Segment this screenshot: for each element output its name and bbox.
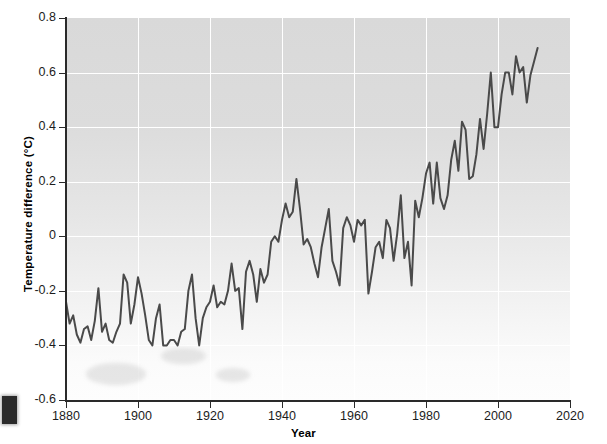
y-axis-tick xyxy=(59,400,65,401)
x-axis-tick-label: 1900 xyxy=(108,409,168,423)
y-axis-tick xyxy=(59,73,65,74)
y-axis-tick xyxy=(59,127,65,128)
x-axis-tick-label: 1940 xyxy=(252,409,312,423)
data-series-line xyxy=(66,18,570,400)
y-axis-tick-label: -0.4 xyxy=(6,337,56,351)
y-axis-tick xyxy=(59,291,65,292)
x-axis-tick-label: 2000 xyxy=(468,409,528,423)
x-axis-tick-label: 1880 xyxy=(36,409,96,423)
y-axis-tick-label: 0.6 xyxy=(6,65,56,79)
x-axis-title: Year xyxy=(0,427,607,439)
x-axis-tick xyxy=(210,402,211,408)
x-axis-tick xyxy=(66,402,67,408)
y-axis-tick xyxy=(59,236,65,237)
x-axis-line xyxy=(65,400,571,402)
y-axis-title: Temperature difference (°C) xyxy=(22,104,34,324)
x-axis-tick xyxy=(570,402,571,408)
plot-area xyxy=(66,18,570,400)
y-axis-tick xyxy=(59,345,65,346)
y-axis-tick xyxy=(59,182,65,183)
y-axis-line xyxy=(65,17,67,401)
x-axis-tick xyxy=(426,402,427,408)
x-axis-tick xyxy=(282,402,283,408)
y-axis-tick xyxy=(59,18,65,19)
x-axis-tick xyxy=(354,402,355,408)
x-axis-tick-label: 1960 xyxy=(324,409,384,423)
x-axis-tick-label: 1980 xyxy=(396,409,456,423)
x-axis-tick xyxy=(498,402,499,408)
x-axis-tick-label: 2020 xyxy=(540,409,600,423)
chart-page: 1880 1900 1920 1940 1960 1980 2000 2020 … xyxy=(0,0,607,444)
scan-artifact-block xyxy=(2,396,17,424)
x-axis-tick xyxy=(138,402,139,408)
y-axis-tick-label: 0.8 xyxy=(6,10,56,24)
x-axis-tick-label: 1920 xyxy=(180,409,240,423)
